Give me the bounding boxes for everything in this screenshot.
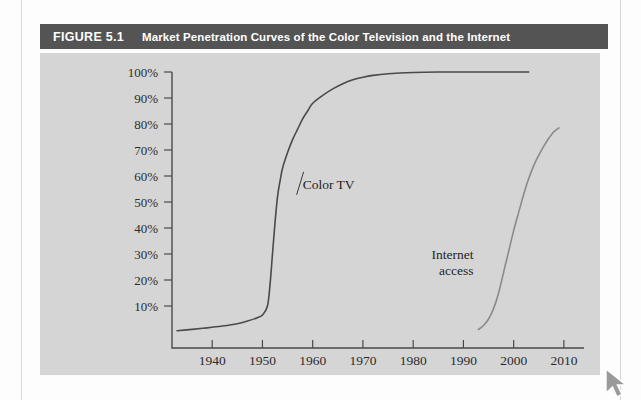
figure-title-bar: FIGURE 5.1 Market Penetration Curves of …	[40, 24, 608, 49]
x-tick-label: 1960	[299, 353, 326, 368]
y-tick-label: 40%	[134, 221, 158, 236]
x-tick-label: 1990	[450, 353, 477, 368]
figure-caption: Market Penetration Curves of the Color T…	[142, 31, 510, 43]
y-tick-label: 50%	[134, 195, 158, 210]
y-tick-label: 80%	[134, 117, 158, 132]
page-edge-left	[21, 0, 22, 400]
chart-panel: 10%20%30%40%50%60%70%80%90%100% 19401950…	[40, 53, 600, 375]
y-axis-tick-marks	[164, 72, 172, 306]
page-edge-right	[620, 0, 621, 400]
y-tick-label: 70%	[134, 143, 158, 158]
y-tick-label: 100%	[128, 65, 159, 80]
series-label-color-tv: Color TV	[303, 177, 355, 192]
x-tick-label: 1950	[249, 353, 276, 368]
x-tick-label: 1970	[349, 353, 376, 368]
x-tick-label: 2000	[500, 353, 527, 368]
series-line-internet-access	[478, 128, 558, 330]
x-tick-label: 1940	[199, 353, 226, 368]
series-line-color-tv	[177, 72, 529, 331]
figure-number: FIGURE 5.1	[53, 30, 124, 44]
x-axis-tick-marks	[212, 340, 564, 348]
x-tick-label: 1980	[400, 353, 427, 368]
chart-axes	[164, 72, 584, 348]
series-label-internet-access: Internet access	[431, 247, 473, 278]
x-axis-tick-labels: 19401950196019701980199020002010	[199, 353, 578, 368]
chart-series	[177, 72, 559, 331]
y-tick-label: 60%	[134, 169, 158, 184]
series-label-internet-line-2: access	[439, 263, 473, 278]
figure-page: FIGURE 5.1 Market Penetration Curves of …	[0, 0, 641, 400]
x-tick-label: 2010	[550, 353, 577, 368]
y-tick-label: 20%	[134, 273, 158, 288]
y-tick-label: 30%	[134, 247, 158, 262]
penetration-curves-chart: 10%20%30%40%50%60%70%80%90%100% 19401950…	[40, 53, 600, 375]
y-tick-label: 10%	[134, 299, 158, 314]
mouse-pointer-icon	[604, 368, 638, 400]
y-axis-tick-labels: 10%20%30%40%50%60%70%80%90%100%	[128, 65, 159, 314]
series-label-internet-line-1: Internet	[431, 247, 473, 262]
y-tick-label: 90%	[134, 91, 158, 106]
